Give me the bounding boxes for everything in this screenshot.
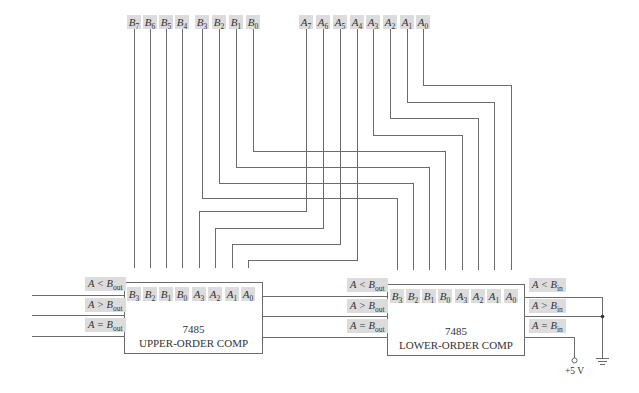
lower-pin-a3: A3 <box>455 289 469 303</box>
input-label-a3: A3 <box>366 15 380 29</box>
lower-pin-b1: B1 <box>422 289 436 303</box>
wire-a1 <box>408 29 495 270</box>
input-label-a5: A5 <box>333 15 347 29</box>
wire-a6 <box>216 29 324 268</box>
lower-pin-b0: B0 <box>438 289 452 303</box>
upper-pin-b0: B0 <box>175 287 189 301</box>
input-label-b4: B4 <box>175 15 189 29</box>
wire-b0 <box>254 29 446 270</box>
lower-comp-part: 7485 <box>387 324 525 338</box>
upper-comp-name: UPPER-ORDER COMP <box>124 336 263 350</box>
lower-in-a-lt-b: A < Bin <box>529 278 566 292</box>
lower-out-a-gt-b: A > Bout <box>347 299 388 313</box>
upper-out-a-eq-b: A = Bout <box>85 318 126 332</box>
input-label-b0: B0 <box>246 15 260 29</box>
input-label-b1: B1 <box>229 15 243 29</box>
lower-comp-name: LOWER-ORDER COMP <box>387 338 525 352</box>
upper-pin-a0: A0 <box>241 287 255 301</box>
supply-label: +5 V <box>565 366 584 376</box>
input-label-a0: A0 <box>416 15 430 29</box>
input-label-b3: B3 <box>195 15 209 29</box>
wire-b2 <box>220 29 414 270</box>
upper-pin-a1: A1 <box>225 287 239 301</box>
input-label-b6: B6 <box>143 15 157 29</box>
input-label-a6: A6 <box>316 15 330 29</box>
upper-pin-b2: B2 <box>143 287 157 301</box>
input-label-a4: A4 <box>350 15 364 29</box>
lower-pin-b2: B2 <box>406 289 420 303</box>
wire-a0 <box>424 29 512 270</box>
upper-comp-part: 7485 <box>124 322 263 336</box>
vcc-terminal <box>572 358 577 363</box>
lower-in-a-eq-b: A = Bin <box>529 319 566 333</box>
input-label-a7: A7 <box>299 15 313 29</box>
input-label-b5: B5 <box>159 15 173 29</box>
input-label-a2: A2 <box>383 15 397 29</box>
lower-pin-a1: A1 <box>487 289 501 303</box>
wiring-diagram <box>0 0 639 393</box>
input-label-b7: B7 <box>127 15 141 29</box>
wire-a3 <box>374 29 463 270</box>
lower-pin-a2: A2 <box>471 289 485 303</box>
upper-pin-b3: B3 <box>127 287 141 301</box>
lower-out-a-lt-b: A < Bout <box>347 278 388 292</box>
upper-out-a-lt-b: A < Bout <box>85 277 126 291</box>
upper-pin-a3: A3 <box>192 287 206 301</box>
wire-b1 <box>237 29 430 270</box>
lower-pin-a0: A0 <box>504 289 518 303</box>
junction-dot <box>601 315 605 319</box>
lower-out-a-eq-b: A = Bout <box>347 319 388 333</box>
input-label-b2: B2 <box>212 15 226 29</box>
input-label-a1: A1 <box>400 15 414 29</box>
lower-pin-b3: B3 <box>390 289 404 303</box>
upper-pin-b1: B1 <box>159 287 173 301</box>
wire-a2 <box>391 29 479 270</box>
upper-pin-a2: A2 <box>208 287 222 301</box>
upper-out-a-gt-b: A > Bout <box>85 298 126 312</box>
wire-a5 <box>233 29 341 268</box>
wire-a4 <box>249 29 358 268</box>
wire-b3 <box>203 29 398 270</box>
lower-in-a-gt-b: A > Bin <box>529 299 566 313</box>
